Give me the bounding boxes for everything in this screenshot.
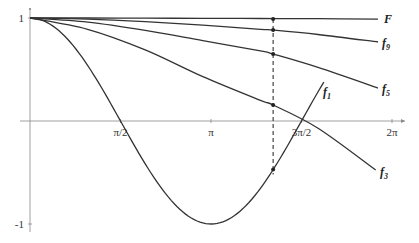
y-axis-tip xyxy=(29,8,31,10)
y-tick-label: -1 xyxy=(15,218,24,230)
data-point xyxy=(271,28,275,32)
data-point xyxy=(271,52,275,56)
legend-label-f3: f3 xyxy=(380,165,388,181)
label-subscript: 1 xyxy=(327,92,331,101)
legend-label-f9: f9 xyxy=(382,36,390,52)
axes xyxy=(20,8,405,232)
x-tick-label: 3π/2 xyxy=(292,126,312,138)
legend-label-f5: f5 xyxy=(382,82,390,98)
x-axis-arrow xyxy=(401,119,405,123)
label-subscript: 5 xyxy=(386,89,390,98)
annotations xyxy=(271,17,275,175)
label-subscript: 9 xyxy=(386,43,390,52)
data-point xyxy=(271,17,275,21)
x-tick-label: 2π xyxy=(386,126,398,138)
plot-area: π/2π3π/22π1-1Ff9f5f3f1 xyxy=(0,0,419,243)
x-tick-label: π/2 xyxy=(113,126,127,138)
y-tick-label: 1 xyxy=(19,12,25,24)
x-tick-label: π xyxy=(208,126,214,138)
legend-label-f1: f1 xyxy=(323,85,331,101)
data-point xyxy=(271,103,275,107)
label-subscript: 3 xyxy=(383,172,388,181)
data-point xyxy=(271,167,275,171)
legend-label-F: F xyxy=(383,12,392,26)
